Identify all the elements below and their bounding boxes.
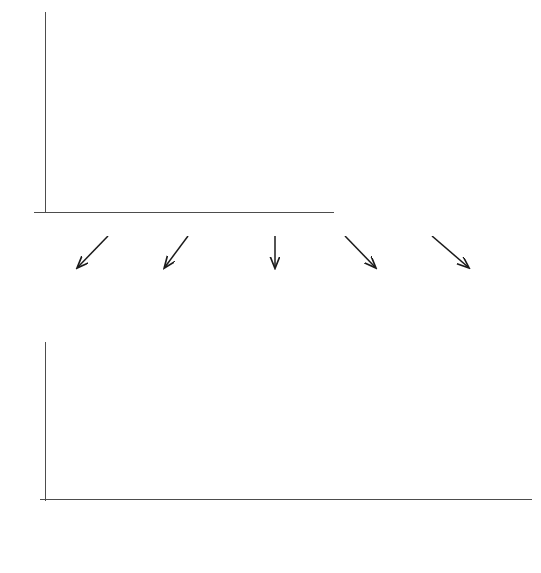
arrow-code-1318: [78, 236, 108, 267]
facet-histograms-panel: [0, 330, 541, 573]
arrow-scientists: [165, 236, 188, 267]
legend: [424, 62, 536, 66]
arrows-svg: [0, 236, 541, 296]
bottom-plot-area: [46, 344, 524, 499]
stacked-histogram-panel: [0, 0, 541, 250]
top-plot-area: [46, 14, 341, 212]
arrow-technicians: [432, 236, 468, 267]
arrow-professional-services: [345, 236, 375, 267]
figure-root: [0, 0, 541, 573]
bottom-x-axis-line: [40, 499, 532, 500]
annotation-arrow-layer: [0, 236, 541, 296]
top-x-axis-line: [34, 212, 334, 213]
